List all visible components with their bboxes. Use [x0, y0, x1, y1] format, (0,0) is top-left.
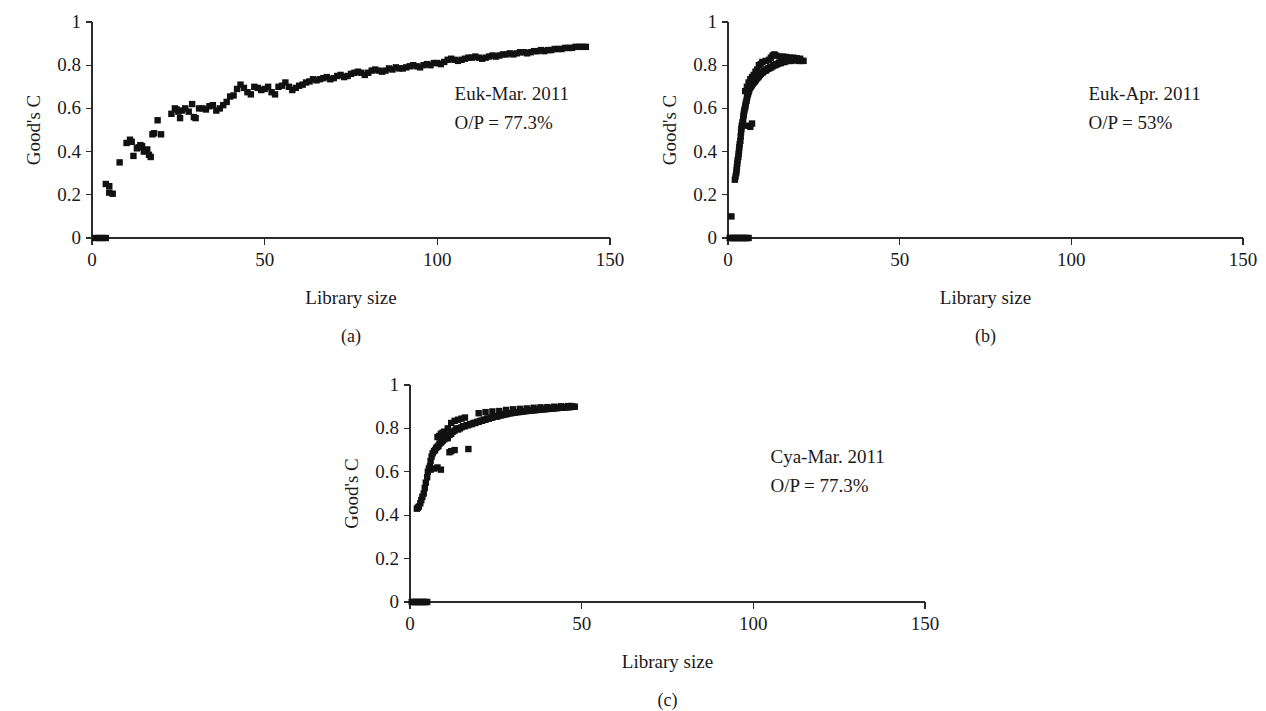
- data-point: [103, 235, 109, 241]
- data-point: [434, 434, 440, 440]
- data-point: [475, 410, 481, 416]
- y-tick-label: 0: [72, 227, 82, 248]
- y-tick-label: 0: [708, 227, 718, 248]
- y-tick-label: 0.4: [693, 141, 717, 162]
- scatter-plot-b: 00.20.40.60.81050100150Library sizeGood'…: [640, 0, 1266, 360]
- data-point: [106, 183, 112, 189]
- data-point: [530, 405, 536, 411]
- y-tick-label: 0.2: [693, 184, 717, 205]
- y-axis-title: Good's C: [341, 458, 362, 528]
- data-point: [742, 88, 748, 94]
- data-point: [745, 235, 751, 241]
- y-tick-label: 0.2: [57, 184, 81, 205]
- data-point: [537, 404, 543, 410]
- y-tick-label: 0: [390, 591, 400, 612]
- y-tick-label: 0.4: [57, 141, 81, 162]
- data-point: [551, 404, 557, 410]
- x-tick-label: 150: [596, 249, 625, 270]
- panel-label: (c): [658, 690, 678, 711]
- y-tick-label: 1: [72, 11, 82, 32]
- data-point: [749, 120, 755, 126]
- y-axis-title: Good's C: [659, 95, 680, 165]
- data-point: [110, 191, 116, 197]
- data-point: [158, 131, 164, 137]
- y-tick-label: 1: [708, 11, 718, 32]
- x-tick-label: 100: [1057, 249, 1086, 270]
- y-tick-label: 0.6: [693, 97, 717, 118]
- data-point: [192, 115, 198, 121]
- data-point: [424, 599, 430, 605]
- x-tick-label: 50: [572, 613, 591, 634]
- x-axis-title: Library size: [305, 287, 396, 308]
- panel-label: (b): [975, 326, 996, 347]
- x-tick-label: 50: [255, 249, 274, 270]
- data-point: [465, 446, 471, 452]
- data-point: [797, 56, 803, 62]
- data-point: [583, 44, 589, 50]
- y-tick-label: 1: [390, 374, 400, 395]
- data-point: [568, 403, 574, 409]
- data-point: [558, 403, 564, 409]
- data-point: [177, 115, 183, 121]
- data-point-group: [92, 44, 589, 242]
- x-axis-title: Library size: [940, 287, 1031, 308]
- data-point: [482, 409, 488, 415]
- data-point: [189, 101, 195, 107]
- data-point: [503, 407, 509, 413]
- y-tick-label: 0.6: [375, 461, 399, 482]
- data-point: [517, 406, 523, 412]
- x-tick-label: 0: [405, 613, 415, 634]
- data-point: [510, 406, 516, 412]
- data-point: [151, 130, 157, 136]
- data-point: [272, 91, 278, 97]
- panel-a: 00.20.40.60.81050100150Library sizeGood'…: [0, 0, 640, 360]
- x-tick-label: 150: [911, 613, 940, 634]
- data-point: [116, 159, 122, 165]
- data-point: [524, 405, 530, 411]
- annotation-sample-label: Euk-Mar. 2011: [455, 83, 569, 104]
- scatter-plot-c: 00.20.40.60.81050100150Library sizeGood'…: [330, 358, 950, 711]
- data-point: [462, 414, 468, 420]
- annotation-op-value: O/P = 53%: [1089, 112, 1173, 133]
- data-point: [438, 466, 444, 472]
- y-axis-title: Good's C: [23, 95, 44, 165]
- y-tick-label: 0.8: [57, 54, 81, 75]
- panel-b: 00.20.40.60.81050100150Library sizeGood'…: [640, 0, 1266, 360]
- annotation-sample-label: Cya-Mar. 2011: [771, 446, 885, 467]
- data-point-group: [727, 51, 807, 241]
- data-point: [728, 213, 734, 219]
- x-axis-title: Library size: [622, 651, 713, 672]
- data-point: [248, 91, 254, 97]
- y-tick-label: 0.4: [375, 504, 399, 525]
- panel-label: (a): [341, 326, 361, 347]
- data-point: [148, 154, 154, 160]
- x-tick-label: 100: [739, 613, 768, 634]
- figure-container: 00.20.40.60.81050100150Library sizeGood'…: [0, 0, 1266, 711]
- data-point: [154, 117, 160, 123]
- annotation-op-value: O/P = 77.3%: [455, 112, 553, 133]
- x-tick-label: 0: [87, 249, 97, 270]
- y-tick-label: 0.6: [57, 97, 81, 118]
- data-point: [230, 92, 236, 98]
- data-point: [544, 404, 550, 410]
- data-point-group: [409, 403, 578, 605]
- y-tick-label: 0.2: [375, 548, 399, 569]
- data-point: [496, 408, 502, 414]
- y-tick-label: 0.8: [375, 417, 399, 438]
- x-tick-label: 50: [890, 249, 909, 270]
- x-tick-label: 0: [723, 249, 733, 270]
- data-point: [130, 153, 136, 159]
- y-tick-label: 0.8: [693, 54, 717, 75]
- annotation-sample-label: Euk-Apr. 2011: [1089, 83, 1201, 104]
- scatter-plot-a: 00.20.40.60.81050100150Library sizeGood'…: [0, 0, 640, 360]
- data-point: [129, 139, 135, 145]
- x-tick-label: 100: [423, 249, 452, 270]
- x-tick-label: 150: [1229, 249, 1258, 270]
- data-point: [451, 447, 457, 453]
- panel-c: 00.20.40.60.81050100150Library sizeGood'…: [330, 358, 950, 711]
- annotation-op-value: O/P = 77.3%: [771, 475, 869, 496]
- data-point: [489, 408, 495, 414]
